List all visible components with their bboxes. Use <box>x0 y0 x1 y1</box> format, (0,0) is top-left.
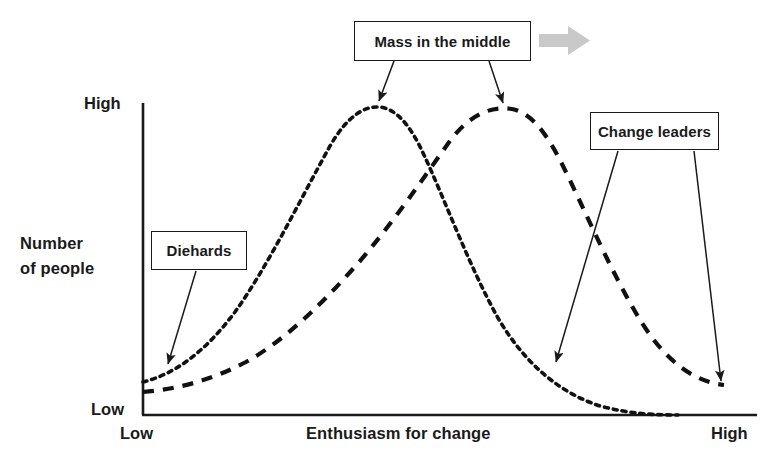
leader-line-diehards <box>168 271 196 364</box>
chart-figure: Mass in the middle Change leaders Diehar… <box>0 0 760 475</box>
leader-line-leaders-right <box>694 151 721 381</box>
leader-line-mass-left <box>379 61 394 101</box>
right-arrow-icon <box>539 25 591 56</box>
x-axis-title: Enthusiasm for change <box>306 424 491 443</box>
y-axis-tick-high: High <box>84 94 121 113</box>
y-axis-title-line1: Number <box>20 231 140 256</box>
callout-change-leaders: Change leaders <box>590 112 719 150</box>
y-axis-tick-low: Low <box>91 400 124 419</box>
annotation-leader-lines <box>168 61 721 381</box>
callout-mass-in-the-middle: Mass in the middle <box>354 21 531 61</box>
leader-line-leaders-left <box>556 151 618 362</box>
x-axis-tick-high: High <box>711 424 748 443</box>
leader-line-mass-right <box>489 61 503 103</box>
y-axis-title: Number of people <box>20 231 140 281</box>
x-axis-tick-low: Low <box>120 424 153 443</box>
y-axis-title-line2: of people <box>20 256 140 281</box>
callout-diehards: Diehards <box>151 231 247 270</box>
